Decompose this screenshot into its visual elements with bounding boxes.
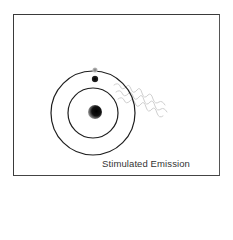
nucleus bbox=[88, 105, 102, 119]
faded-electron bbox=[92, 67, 97, 72]
diagram-caption: Stimulated Emission bbox=[102, 158, 190, 169]
photon-wave-icon bbox=[114, 84, 167, 117]
electron bbox=[92, 76, 98, 82]
